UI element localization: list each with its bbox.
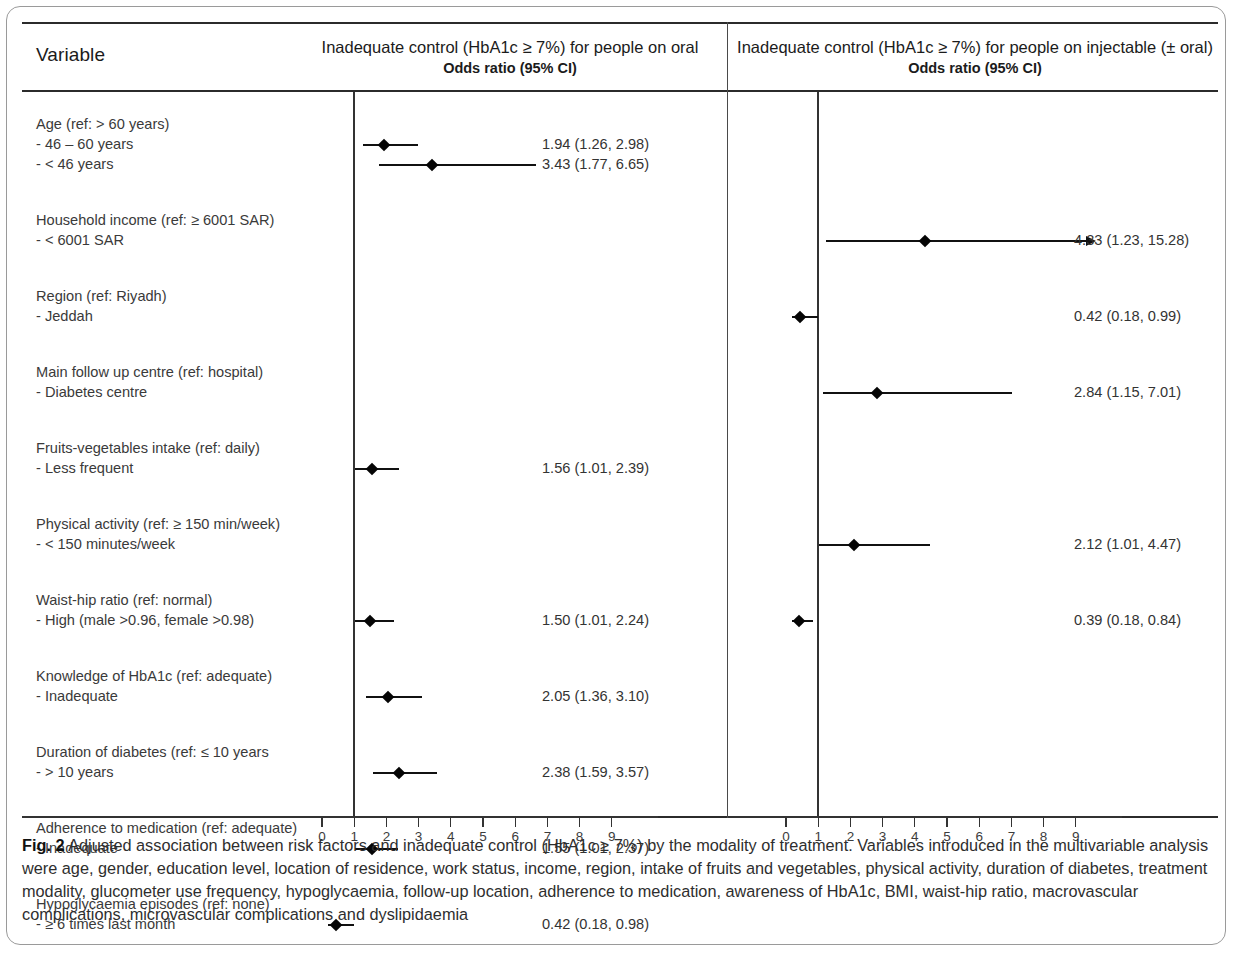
x-axis-line-oral (22, 816, 658, 818)
x-tick-injectable-1 (818, 818, 819, 827)
x-tick-injectable-5 (946, 818, 947, 827)
header-injectable-title: Inadequate control (HbA1c ≥ 7%) for peop… (732, 36, 1218, 58)
odds-ratio-value-label: 1.56 (1.01, 2.39) (542, 460, 649, 476)
x-tick-oral-2 (386, 818, 387, 827)
x-tick-injectable-4 (914, 818, 915, 827)
x-tick-oral-1 (354, 818, 355, 827)
x-tick-oral-9 (611, 818, 612, 827)
header-oral-panel: Inadequate control (HbA1c ≥ 7%) for peop… (305, 36, 715, 79)
x-tick-oral-5 (482, 818, 483, 827)
x-tick-oral-3 (418, 818, 419, 827)
odds-ratio-marker (392, 767, 405, 780)
odds-ratio-value-label: 2.38 (1.59, 3.57) (542, 764, 649, 780)
odds-ratio-value-label: 3.43 (1.77, 6.65) (542, 156, 649, 172)
odds-ratio-marker (364, 615, 377, 628)
odds-ratio-value-label: 1.50 (1.01, 2.24) (542, 612, 649, 628)
x-tick-injectable-6 (979, 818, 980, 827)
header-oral-title: Inadequate control (HbA1c ≥ 7%) for peop… (305, 36, 715, 58)
odds-ratio-marker (792, 615, 805, 628)
reference-line-oral (353, 92, 355, 816)
header-injectable-panel: Inadequate control (HbA1c ≥ 7%) for peop… (732, 36, 1218, 79)
odds-ratio-value-label: 0.39 (0.18, 0.84) (1074, 612, 1181, 628)
x-tick-oral-4 (450, 818, 451, 827)
ci-line (826, 240, 1086, 242)
odds-ratio-marker (793, 311, 806, 324)
odds-ratio-marker (848, 539, 861, 552)
table-top-rule (22, 22, 1218, 24)
x-tick-oral-6 (515, 818, 516, 827)
figure-caption-text: Adjusted association between risk factor… (22, 836, 1208, 923)
figure-number: Fig. 2 (22, 836, 65, 854)
x-tick-injectable-0 (785, 818, 786, 827)
x-tick-injectable-7 (1011, 818, 1012, 827)
forest-panel-injectable: 01234567894.33 (1.23, 15.28)0.42 (0.18, … (728, 92, 1218, 816)
odds-ratio-marker (378, 139, 391, 152)
odds-ratio-marker (871, 387, 884, 400)
odds-ratio-marker (426, 159, 439, 172)
odds-ratio-value-label: 2.05 (1.36, 3.10) (542, 688, 649, 704)
odds-ratio-value-label: 2.12 (1.01, 4.47) (1074, 536, 1181, 552)
ci-line (819, 544, 930, 546)
odds-ratio-marker (919, 235, 932, 248)
odds-ratio-value-label: 4.33 (1.23, 15.28) (1074, 232, 1189, 248)
x-tick-injectable-8 (1043, 818, 1044, 827)
header-injectable-subtitle: Odds ratio (95% CI) (732, 59, 1218, 79)
odds-ratio-marker (382, 691, 395, 704)
x-tick-injectable-3 (882, 818, 883, 827)
reference-line-injectable (817, 92, 819, 816)
odds-ratio-value-label: 1.94 (1.26, 2.98) (542, 136, 649, 152)
figure-caption: Fig. 2 Adjusted association between risk… (22, 834, 1214, 927)
odds-ratio-value-label: 2.84 (1.15, 7.01) (1074, 384, 1181, 400)
header-oral-subtitle: Odds ratio (95% CI) (305, 59, 715, 79)
x-tick-injectable-2 (850, 818, 851, 827)
figure-container: Variable Inadequate control (HbA1c ≥ 7%)… (0, 0, 1235, 953)
x-axis-line-injectable (728, 816, 1122, 818)
x-tick-oral-7 (547, 818, 548, 827)
ci-line (823, 392, 1012, 394)
odds-ratio-value-label: 0.42 (0.18, 0.99) (1074, 308, 1181, 324)
x-tick-oral-0 (321, 818, 322, 827)
forest-panel-oral: 01234567891.94 (1.26, 2.98)3.43 (1.77, 6… (22, 92, 727, 816)
forest-plot-table: Variable Inadequate control (HbA1c ≥ 7%)… (22, 22, 1218, 818)
x-tick-oral-8 (579, 818, 580, 827)
ci-line (379, 164, 536, 166)
x-tick-injectable-9 (1075, 818, 1076, 827)
odds-ratio-marker (366, 463, 379, 476)
header-variable: Variable (36, 44, 105, 66)
